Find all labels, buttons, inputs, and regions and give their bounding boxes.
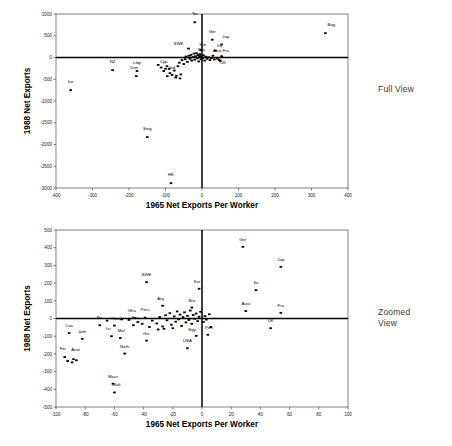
full-view-annotation: Full View (378, 84, 414, 95)
data-point (189, 310, 192, 312)
data-point (180, 325, 183, 327)
data-point (145, 340, 148, 342)
data-point (71, 361, 74, 363)
data-point (189, 58, 192, 60)
data-point (210, 57, 213, 59)
y-tick-label: 500 (44, 33, 52, 38)
x-tick-label: 0 (201, 412, 204, 417)
data-point (202, 321, 205, 323)
data-point (113, 325, 116, 327)
data-point (195, 52, 198, 54)
data-point (219, 60, 222, 62)
data-point-label: SWE (142, 272, 152, 277)
data-point (186, 61, 189, 63)
data-point (183, 311, 186, 313)
data-point (176, 311, 179, 313)
data-point (182, 316, 185, 318)
y-tick-label: -500 (43, 405, 53, 410)
data-point (119, 337, 122, 339)
data-point (166, 65, 169, 67)
x-axis-title: 1965 Net Exports Per Worker (146, 201, 259, 210)
data-point (128, 319, 131, 321)
data-point (192, 314, 195, 316)
x-tick-label: 80 (316, 412, 322, 417)
data-point-label: USA (183, 338, 192, 343)
data-point (157, 329, 160, 331)
data-point-label: Cos (65, 323, 73, 328)
data-point (166, 75, 169, 77)
data-point (99, 324, 102, 326)
data-point (324, 32, 327, 34)
data-point (193, 53, 196, 55)
data-point (213, 59, 216, 61)
x-tick-label: -100 (161, 193, 171, 198)
data-point (196, 320, 199, 322)
data-point-label: Nic (97, 315, 104, 320)
x-tick-label: -60 (111, 412, 118, 417)
data-point (169, 72, 172, 74)
data-point (245, 310, 248, 312)
data-point-label: Aust (71, 347, 80, 352)
y-tick-label: 1000 (42, 12, 53, 17)
data-point (161, 326, 164, 328)
x-tick-label: 300 (308, 193, 316, 198)
data-point-label: Bag (328, 22, 336, 27)
data-point (136, 70, 139, 72)
data-point (171, 74, 174, 76)
x-tick-label: 100 (344, 412, 352, 417)
data-point (141, 323, 144, 325)
data-point-label: Arg (157, 296, 164, 301)
data-point (280, 266, 283, 268)
y-tick-label: -1500 (40, 120, 52, 125)
data-point (174, 321, 177, 323)
data-point (144, 317, 147, 319)
data-point-label: Den (130, 65, 138, 70)
data-point (173, 70, 176, 72)
figure-container: 10005000-500-1000-1500-2000-2500-3000-40… (0, 0, 452, 446)
x-tick-label: -300 (88, 193, 98, 198)
y-tick-label: 100 (44, 299, 52, 304)
data-point-label: Isr (106, 326, 111, 331)
data-point (173, 315, 176, 317)
x-tick-label: -100 (51, 412, 61, 417)
y-tick-label: 300 (44, 263, 52, 268)
data-point (69, 89, 72, 91)
data-point (194, 55, 197, 57)
data-point-label: Kor (194, 279, 201, 284)
x-tick-label: 100 (235, 193, 243, 198)
data-point-label: UK (268, 318, 274, 323)
data-point-label: Jap (277, 257, 285, 262)
data-point-label: Aust (213, 48, 222, 53)
data-point (160, 67, 163, 69)
data-point (242, 246, 245, 248)
x-tick-label: -200 (124, 193, 134, 198)
y-tick-label: -500 (43, 77, 53, 82)
data-point (106, 320, 109, 322)
data-point (208, 313, 211, 315)
y-tick-label: 0 (49, 55, 52, 60)
data-point (195, 313, 198, 315)
data-point (198, 288, 201, 290)
x-tick-label: 400 (344, 193, 352, 198)
data-point (63, 356, 66, 358)
data-point-label: Jam (78, 329, 87, 334)
data-point (203, 60, 206, 62)
data-point (209, 326, 212, 328)
y-tick-label: 500 (44, 228, 52, 233)
data-point-label: NZ (110, 59, 116, 64)
data-point (197, 61, 200, 63)
data-point (185, 56, 188, 58)
data-point (157, 64, 160, 66)
data-point (164, 314, 167, 316)
y-tick-label: 0 (49, 316, 52, 321)
data-point-label: Ger (239, 237, 247, 242)
x-tick-label: 20 (229, 412, 235, 417)
y-tick-label: -400 (43, 387, 53, 392)
data-point-label: Grc (143, 331, 151, 336)
data-point (66, 360, 69, 362)
data-point (120, 318, 123, 320)
data-point (180, 74, 183, 76)
data-point (166, 319, 169, 321)
data-point (178, 62, 181, 64)
data-point (199, 53, 202, 55)
